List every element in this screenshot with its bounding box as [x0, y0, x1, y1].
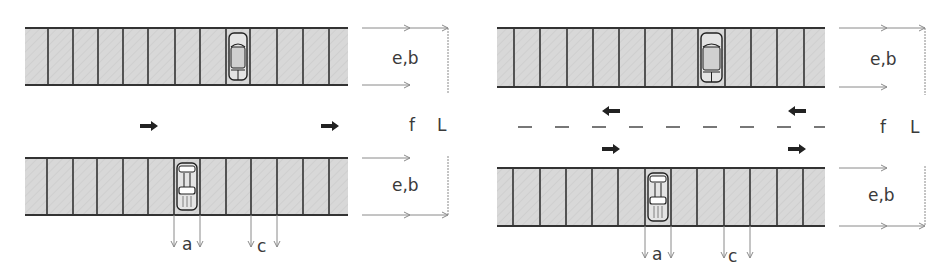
traffic-direction-right-icon	[321, 121, 339, 131]
left-parking-row-top	[25, 28, 348, 85]
car-icon	[701, 33, 722, 82]
car-icon	[648, 173, 668, 221]
traffic-direction-right-icon	[602, 144, 620, 154]
traffic-direction-left-icon	[788, 106, 806, 116]
left-top-row-depth-label: e,b	[392, 50, 419, 67]
traffic-direction-right-icon	[788, 144, 806, 154]
right-bottom-row-depth-label: e,b	[868, 187, 895, 204]
right-parking-row-bottom	[497, 168, 825, 226]
traffic-direction-right-icon	[140, 121, 158, 131]
right-top-row-depth-label: e,b	[870, 51, 897, 68]
left-total-length-label: L	[437, 117, 446, 134]
right-total-length-label: L	[910, 119, 919, 136]
left-parking-row-bottom	[25, 158, 348, 215]
left-aisle-width-label: f	[409, 117, 415, 134]
left-bottom-row-depth-label: e,b	[392, 177, 419, 194]
traffic-direction-left-icon	[602, 106, 620, 116]
car-icon	[177, 163, 197, 210]
right-stall-width-c-label: c	[728, 248, 737, 265]
parking-layout-diagram	[0, 0, 949, 270]
left-stall-width-a-label: a	[182, 236, 192, 253]
right-aisle-width-label: f	[880, 119, 886, 136]
car-icon	[229, 33, 247, 80]
right-stall-width-a-label: a	[652, 246, 662, 263]
left-stall-width-c-label: c	[257, 238, 266, 255]
right-parking-row-top	[497, 28, 825, 87]
